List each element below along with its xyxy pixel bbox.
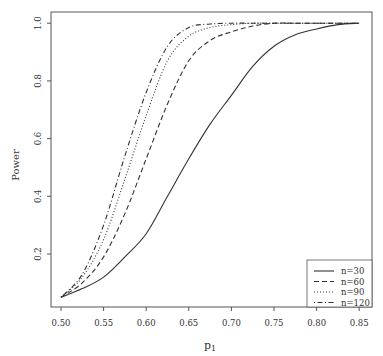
x-tick-label: 0.60: [137, 318, 156, 328]
y-axis-ticks: 0.20.40.60.81.0: [33, 16, 51, 260]
y-tick-label: 1.0: [33, 16, 43, 30]
curve-n-90: [61, 23, 359, 297]
y-axis-label: Power: [10, 149, 21, 181]
x-tick-label: 0.55: [94, 318, 113, 328]
power-curve-chart: 0.500.550.600.650.700.750.800.85 0.20.40…: [0, 0, 383, 356]
legend-label: n=60: [341, 277, 364, 287]
legend: n=30n=60n=90n=120: [307, 260, 372, 308]
x-tick-label: 0.85: [350, 318, 369, 328]
x-tick-label: 0.80: [307, 318, 326, 328]
x-tick-label: 0.70: [222, 318, 241, 328]
y-tick-label: 0.6: [33, 132, 43, 146]
x-axis-ticks: 0.500.550.600.650.700.750.800.85: [52, 307, 369, 328]
power-curves: [61, 23, 359, 297]
legend-label: n=90: [341, 287, 364, 297]
x-tick-label: 0.50: [52, 318, 71, 328]
legend-label: n=120: [341, 298, 370, 308]
y-tick-label: 0.2: [33, 247, 43, 261]
y-tick-label: 0.4: [33, 190, 43, 204]
x-tick-label: 0.65: [179, 318, 198, 328]
x-tick-label: 0.75: [265, 318, 284, 328]
y-tick-label: 0.8: [33, 74, 43, 88]
legend-label: n=30: [341, 266, 364, 276]
curve-n-30: [61, 23, 359, 297]
x-axis-label: p1: [204, 339, 216, 353]
curve-n-120: [61, 23, 359, 297]
curve-n-60: [61, 23, 359, 297]
